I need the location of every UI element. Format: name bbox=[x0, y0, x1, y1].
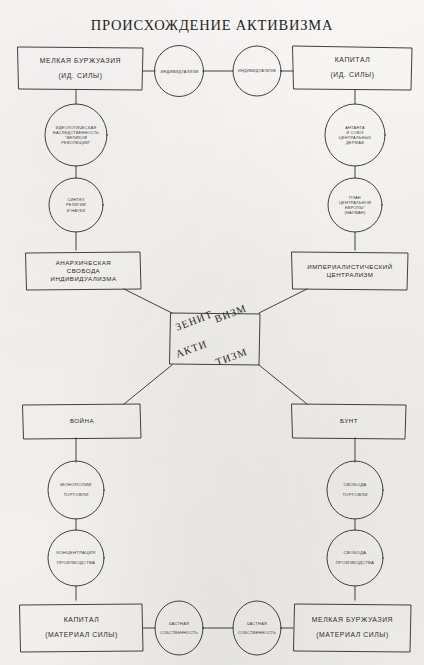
box-mid-right bbox=[292, 252, 408, 290]
circle-trade-freedom bbox=[327, 461, 383, 519]
circle-production-concentration bbox=[48, 530, 104, 586]
connector-anarchic-to-center bbox=[124, 289, 172, 313]
circle-private-property-left bbox=[155, 601, 203, 655]
box-top-left bbox=[18, 47, 143, 90]
box-mid-left bbox=[26, 252, 141, 290]
box-lower-right bbox=[292, 404, 406, 439]
diagram-page: ПРОИСХОЖДЕНИЕ АКТИВИЗМА МЕЛКАЯ БУРЖУАЗИЯ… bbox=[0, 0, 424, 665]
circle-plan-europe bbox=[328, 178, 382, 232]
circle-ideological bbox=[45, 104, 107, 166]
box-bottom-left bbox=[20, 604, 143, 652]
connector-center-to-voyna bbox=[124, 365, 172, 404]
circle-individualism-right bbox=[233, 46, 281, 96]
circle-private-property-right bbox=[233, 601, 281, 655]
box-bottom-right bbox=[294, 604, 411, 652]
circle-synthesis bbox=[49, 178, 103, 232]
box-lower-left bbox=[23, 404, 141, 439]
circle-antanta bbox=[325, 104, 385, 166]
circle-individualism-left bbox=[155, 46, 204, 97]
connector-center-to-bunt bbox=[259, 365, 307, 404]
diagram-shapes-layer bbox=[0, 0, 424, 665]
box-center bbox=[170, 313, 260, 365]
circle-production-freedom bbox=[327, 530, 383, 586]
box-top-right bbox=[293, 46, 412, 90]
connector-imperial-to-center bbox=[259, 289, 307, 313]
circle-trade-monopoly bbox=[48, 461, 104, 519]
